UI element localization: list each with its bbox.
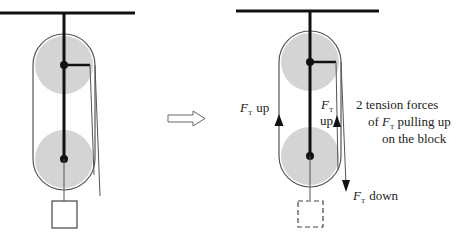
annotation-line-1: 2 tension forces (356, 97, 438, 112)
left-pulley-diagram (0, 13, 135, 228)
dashed-block (298, 201, 323, 227)
annotation-line-3: on the block (382, 131, 447, 146)
right-pulley-diagram: FTup FT up FTdown 2 tension forces of FT… (236, 11, 451, 227)
pulley-diagram-figure: FTup FT up FTdown 2 tension forces of FT… (0, 0, 473, 238)
ft-up-label-left: FTup (239, 100, 269, 117)
free-rope-end (341, 62, 346, 185)
block (52, 201, 77, 228)
free-rope-end (95, 65, 100, 196)
left-up-arrow-icon (275, 114, 284, 126)
down-arrow-icon (342, 180, 350, 192)
ft-down-label: FTdown (352, 188, 399, 205)
top-axle (306, 58, 314, 66)
up-label-inner: up (320, 113, 333, 128)
ft-label-inner: FT (320, 97, 334, 114)
top-axle (60, 61, 68, 69)
hollow-right-arrow-icon (168, 111, 205, 126)
annotation-line-2: of FT pulling up (368, 114, 451, 131)
inner-up-arrow-icon (333, 115, 341, 127)
